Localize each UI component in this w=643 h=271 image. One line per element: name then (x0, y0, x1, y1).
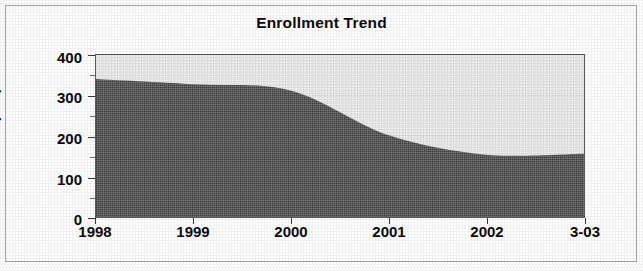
y-axis-title-line-1: # of Members (0, 126, 1, 223)
x-tick-label-1998: 1998 (55, 224, 135, 239)
x-tick-label-2002: 2002 (447, 224, 527, 239)
y-tick-label-200: 200 (36, 131, 82, 146)
y-axis-title-line-2: (000) (0, 88, 1, 123)
y-tick-mark-400 (88, 55, 95, 56)
y-tick-mark-200 (88, 137, 95, 138)
y-tick-label-400: 400 (36, 50, 82, 65)
x-tick-label-3-03: 3-03 (545, 224, 625, 239)
y-tick-label-100: 100 (36, 172, 82, 187)
x-tick-label-2000: 2000 (251, 224, 331, 239)
chart-title: Enrollment Trend (0, 14, 643, 32)
area-series (96, 55, 584, 217)
y-tick-mark-300 (88, 96, 95, 97)
y-tick-label-300: 300 (36, 90, 82, 105)
x-tick-label-1999: 1999 (153, 224, 233, 239)
y-tick-mark-100 (88, 178, 95, 179)
y-tick-mark-0 (88, 218, 95, 219)
x-tick-label-2001: 2001 (349, 224, 429, 239)
y-axis-title: # of Members (000) (0, 70, 6, 240)
plot-area (95, 54, 585, 218)
